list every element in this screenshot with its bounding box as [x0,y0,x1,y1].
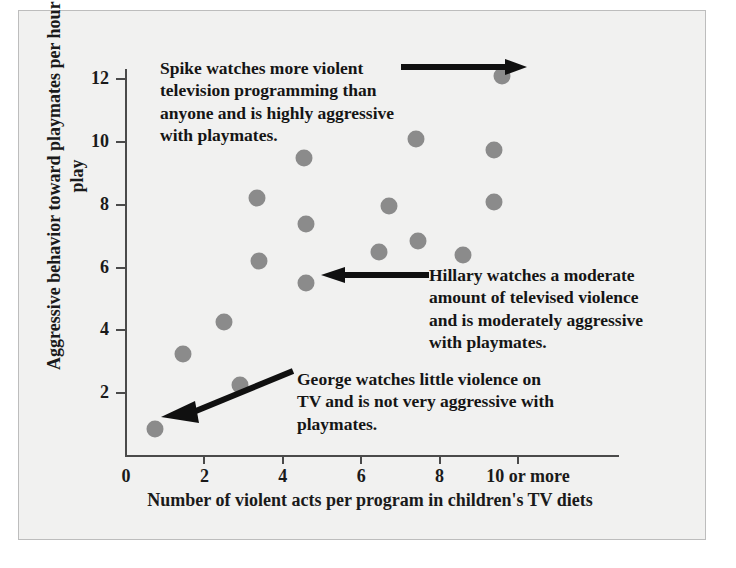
y-axis-tick-label: 2 [65,383,109,401]
x-axis-tick-label: 8 [435,467,444,485]
annotation-george-arrow [161,367,293,429]
data-point [174,345,191,362]
y-axis-tick [116,329,125,331]
x-axis-tick [203,455,205,464]
annotation-george-text: George watches little violence on TV and… [297,368,567,435]
x-axis-line [125,455,619,457]
x-axis-tick-label: 6 [357,467,366,485]
y-axis-title: Aggressive behavior toward playmates per… [43,0,89,371]
data-point [486,193,503,210]
y-axis-tick [116,392,125,394]
x-axis-tick [517,455,519,464]
data-point [251,253,268,270]
data-point [410,232,427,249]
y-axis-tick [116,267,125,269]
x-axis-tick-label: 0 [122,467,131,485]
x-axis-title: Number of violent acts per program in ch… [115,489,625,512]
x-axis-tick [360,455,362,464]
y-axis-line [125,69,127,457]
data-point [370,243,387,260]
figure-panel: 24681012 0246810 or more Aggressive beha… [18,10,706,540]
x-axis-tick [439,455,441,464]
data-point [216,314,233,331]
annotation-hillary-arrow [321,267,429,283]
data-point [249,190,266,207]
x-axis-tick [282,455,284,464]
x-axis-tick-label: 2 [200,467,209,485]
x-axis-tick-label: 4 [278,467,287,485]
data-point [455,246,472,263]
data-point [486,141,503,158]
annotation-spike-arrow [401,59,527,75]
scatter-plot: 24681012 0246810 or more Aggressive beha… [19,11,707,541]
y-axis-tick [116,141,125,143]
data-point [298,215,315,232]
data-point [296,149,313,166]
data-point [380,198,397,215]
x-axis-tick-label: 10 or more [486,467,569,485]
hillary-point [298,275,315,292]
annotation-hillary-text: Hillary watches a moderate amount of tel… [429,264,704,354]
y-axis-tick [116,78,125,80]
y-axis-tick [116,204,125,206]
